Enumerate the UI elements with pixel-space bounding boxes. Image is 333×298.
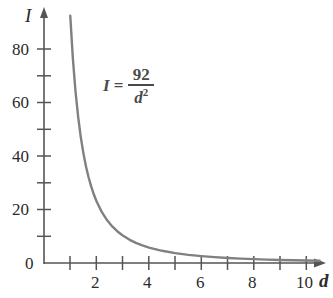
equation-annotation: I = 92 d2 [103,66,154,106]
y-tick-label-80: 80 [12,41,29,58]
x-tick-label-8: 8 [248,274,257,291]
x-tick-label-4: 4 [143,274,152,291]
y-axis-title: I [25,6,31,25]
chart-figure: 80 60 40 20 0 2 4 6 8 10 I d I = 92 d2 [0,0,333,298]
x-tick-label-2: 2 [91,274,100,291]
equation-lhs: I [103,77,110,94]
y-tick-label-60: 60 [12,94,29,111]
x-tick-label-6: 6 [196,274,205,291]
y-axis [40,7,48,264]
x-tick-label-10: 10 [296,274,313,291]
plot-canvas [0,0,333,298]
inverse-square-curve [70,16,319,261]
equation-denominator: d2 [131,86,151,106]
equation-relation: = [114,77,124,94]
denominator-exponent: 2 [143,86,149,98]
y-tick-label-40: 40 [12,148,29,165]
equation-numerator: 92 [130,66,153,84]
denominator-base: d [134,88,143,107]
y-tick-label-0: 0 [25,255,34,272]
y-tick-label-20: 20 [12,201,29,218]
x-axis-title: d [319,271,329,290]
equation-fraction: 92 d2 [128,66,154,106]
